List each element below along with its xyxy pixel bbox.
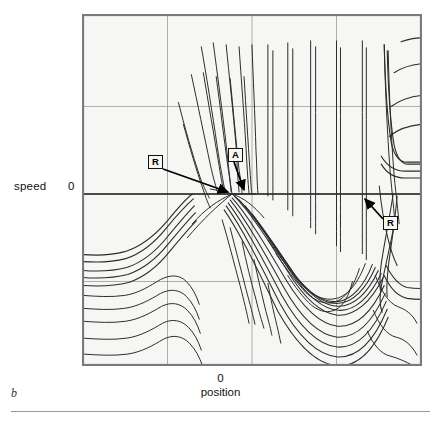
figure-panel: R A R speed 0 0 position b <box>0 0 441 428</box>
y-axis-label: speed <box>14 180 46 192</box>
panel-letter: b <box>11 386 17 401</box>
x-axis-zero-tick-label: 0 <box>0 372 441 384</box>
y-axis-zero-tick-label: 0 <box>68 180 74 192</box>
phase-portrait-plot <box>82 14 422 366</box>
x-axis-label: position <box>0 386 441 398</box>
callout-repeller-right: R <box>383 216 398 230</box>
phase-portrait-svg <box>83 15 421 365</box>
callout-repeller-left: R <box>148 155 163 169</box>
callout-attractor: A <box>228 148 243 162</box>
bottom-divider-rule <box>11 411 430 412</box>
